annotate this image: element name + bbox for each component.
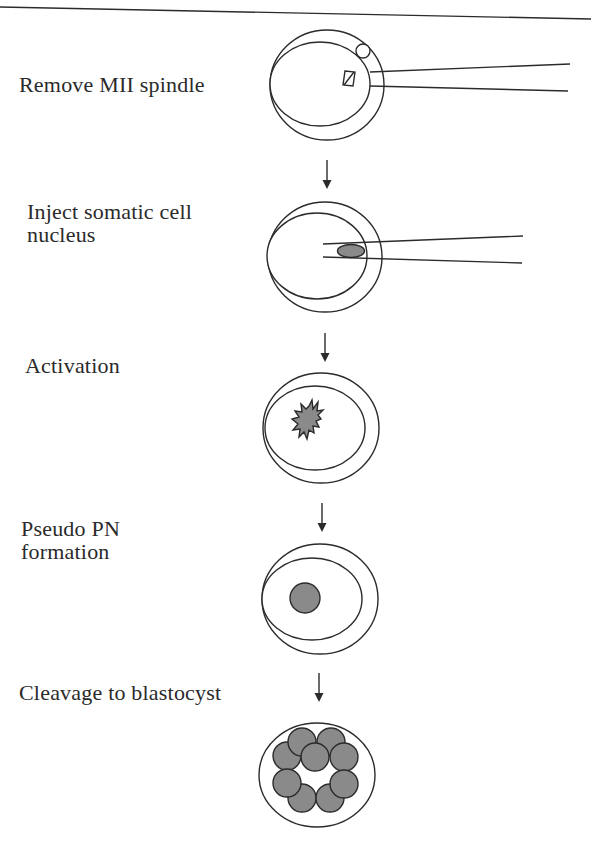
- blastomere-icon: [273, 769, 301, 797]
- somatic-nucleus-icon: [338, 245, 365, 258]
- down-arrow-icon: [315, 673, 324, 702]
- oocyte-nucleus-injection-illustration: [267, 202, 523, 312]
- blastomere-icon: [330, 770, 358, 798]
- step-label-inject-nucleus: Inject somatic cell nucleus: [27, 200, 192, 246]
- blastomere-icon: [301, 743, 329, 771]
- down-arrow-icon: [323, 160, 332, 189]
- blastomere-icon: [330, 743, 358, 771]
- oocyte-spindle-removal-illustration: [270, 30, 570, 140]
- pseudo-pronucleus-illustration: [262, 544, 378, 654]
- step-label-line: formation: [21, 540, 120, 563]
- step-label-pseudo-pn: Pseudo PN formation: [21, 517, 120, 563]
- step-label-line: Remove MII spindle: [19, 73, 205, 96]
- oocyte-cytoplasm-outline: [265, 386, 365, 470]
- step-label-cleavage: Cleavage to blastocyst: [19, 681, 221, 704]
- step-label-line: nucleus: [27, 223, 192, 246]
- flow-diagram: [0, 0, 591, 846]
- header-rule: [0, 7, 591, 19]
- oocyte-activation-illustration: [263, 373, 379, 483]
- blastocyst-illustration: [259, 723, 375, 827]
- step-label-remove-spindle: Remove MII spindle: [19, 73, 205, 96]
- step-label-line: Pseudo PN: [21, 517, 120, 540]
- step-label-line: Inject somatic cell: [27, 200, 192, 223]
- step-label-line: Cleavage to blastocyst: [19, 681, 221, 704]
- spindle-icon: [343, 71, 355, 86]
- diagram-canvas: Remove MII spindle Inject somatic cell n…: [0, 0, 591, 846]
- oocyte-cytoplasm-outline: [270, 42, 370, 126]
- micropipette-icon: [370, 64, 570, 91]
- polar-body-icon: [356, 44, 370, 58]
- pronucleus-icon: [290, 583, 320, 613]
- step-label-activation: Activation: [25, 354, 120, 377]
- step-label-line: Activation: [25, 354, 120, 377]
- down-arrow-icon: [321, 333, 330, 362]
- down-arrow-icon: [318, 503, 327, 532]
